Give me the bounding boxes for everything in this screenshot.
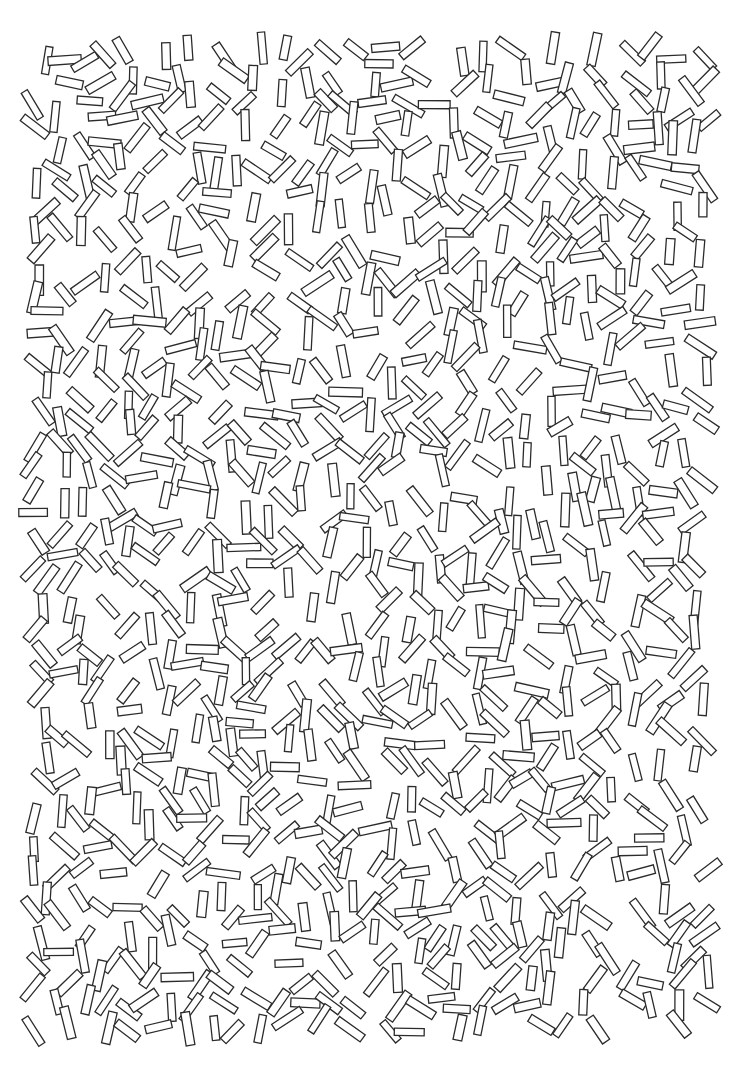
pattern-rectangle xyxy=(551,775,584,791)
pattern-rectangle xyxy=(232,155,242,186)
pattern-rectangle xyxy=(443,1004,470,1013)
pattern-rectangle xyxy=(580,112,600,138)
pattern-rectangle xyxy=(124,123,150,153)
pattern-rectangle xyxy=(240,730,266,738)
pattern-rectangle xyxy=(442,414,468,439)
pattern-rectangle xyxy=(85,72,116,95)
pattern-rectangle xyxy=(466,553,476,586)
pattern-rectangle xyxy=(571,852,592,881)
pattern-rectangle xyxy=(599,509,624,520)
pattern-rectangle xyxy=(463,208,488,235)
pattern-rectangle xyxy=(161,914,176,946)
pattern-rectangle xyxy=(233,305,248,339)
pattern-rectangle xyxy=(143,201,169,223)
pattern-rectangle xyxy=(538,697,562,719)
pattern-rectangle xyxy=(553,1013,573,1038)
pattern-rectangle xyxy=(583,367,598,402)
pattern-rectangle xyxy=(185,81,196,108)
pattern-rectangle xyxy=(526,509,541,540)
pattern-rectangle xyxy=(207,83,231,105)
pattern-rectangle xyxy=(554,927,565,958)
pattern-rectangle xyxy=(126,409,136,434)
pattern-rectangle xyxy=(240,796,249,824)
pattern-rectangle xyxy=(694,239,705,267)
pattern-rectangle xyxy=(206,572,236,594)
pattern-rectangle xyxy=(251,590,275,614)
pattern-rectangle xyxy=(616,269,625,294)
pattern-rectangle xyxy=(183,931,208,952)
pattern-rectangle xyxy=(304,317,313,351)
pattern-rectangle xyxy=(580,905,612,931)
pattern-rectangle xyxy=(684,334,716,359)
pattern-rectangle xyxy=(579,989,588,1015)
pattern-rectangle xyxy=(182,529,204,556)
pattern-rectangle xyxy=(78,659,88,685)
pattern-rectangle xyxy=(77,216,86,245)
pattern-rectangle xyxy=(645,337,674,348)
pattern-rectangle xyxy=(580,436,601,460)
pattern-rectangle xyxy=(526,966,537,991)
pattern-rectangle xyxy=(513,341,547,354)
pattern-rectangle xyxy=(494,963,522,992)
pattern-rectangle xyxy=(114,439,143,466)
pattern-rectangle xyxy=(145,613,156,645)
pattern-rectangle xyxy=(374,943,397,966)
pattern-rectangle xyxy=(649,485,678,498)
pattern-rectangle xyxy=(486,537,509,569)
pattern-rectangle xyxy=(452,247,479,274)
pattern-rectangle xyxy=(168,216,180,251)
pattern-rectangle xyxy=(390,532,412,557)
pattern-rectangle xyxy=(466,647,499,656)
pattern-rectangle xyxy=(20,114,49,139)
pattern-rectangle xyxy=(538,624,564,634)
pattern-rectangle xyxy=(284,214,292,245)
pattern-rectangle xyxy=(433,610,442,639)
pattern-rectangle xyxy=(366,398,375,432)
pattern-rectangle xyxy=(272,633,301,660)
pattern-rectangle xyxy=(210,992,239,1014)
pattern-rectangle xyxy=(119,948,146,979)
pattern-rectangle xyxy=(336,345,350,378)
pattern-rectangle xyxy=(480,685,508,712)
pattern-rectangle xyxy=(261,141,286,160)
pattern-rectangle xyxy=(342,613,357,646)
pattern-rectangle xyxy=(515,862,543,889)
pattern-rectangle xyxy=(42,742,54,774)
pattern-rectangle xyxy=(607,777,616,802)
pattern-rectangle xyxy=(377,185,392,216)
pattern-rectangle xyxy=(497,628,513,662)
pattern-rectangle xyxy=(462,876,487,897)
pattern-rectangle xyxy=(197,891,208,918)
pattern-rectangle xyxy=(598,520,610,547)
pattern-rectangle xyxy=(84,703,96,729)
pattern-rectangle xyxy=(165,340,197,355)
pattern-rectangle xyxy=(489,356,510,383)
pattern-rectangle xyxy=(694,993,721,1013)
pattern-rectangle xyxy=(343,39,368,61)
pattern-rectangle xyxy=(246,929,269,958)
pattern-rectangle xyxy=(496,388,517,413)
pattern-rectangle xyxy=(152,519,182,533)
pattern-rectangle xyxy=(248,65,258,90)
pattern-rectangle xyxy=(451,963,461,989)
pattern-rectangle xyxy=(149,658,164,690)
pattern-rectangle xyxy=(367,354,388,381)
pattern-rectangle xyxy=(211,321,223,351)
pattern-rectangle xyxy=(217,882,226,910)
pattern-rectangle xyxy=(589,815,597,841)
pattern-rectangle xyxy=(563,730,575,759)
pattern-rectangle xyxy=(32,168,41,198)
pattern-rectangle xyxy=(142,357,167,378)
pattern-rectangle xyxy=(482,666,514,679)
pattern-rectangle xyxy=(408,820,420,846)
pattern-rectangle xyxy=(218,58,249,84)
pattern-rectangle xyxy=(422,758,448,786)
pattern-rectangle xyxy=(659,779,684,811)
pattern-rectangle xyxy=(453,1014,467,1041)
pattern-rectangle xyxy=(358,821,392,836)
pattern-rectangle xyxy=(119,642,146,663)
pattern-rectangle xyxy=(144,77,170,91)
pattern-rectangle xyxy=(566,107,580,139)
pattern-rectangle xyxy=(441,698,467,730)
pattern-rectangle xyxy=(475,408,490,442)
